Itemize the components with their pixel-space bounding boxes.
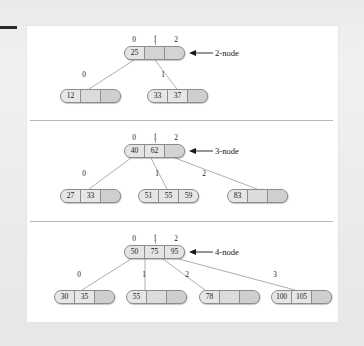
root-cell-0: 25 — [125, 47, 145, 59]
child3-2-cell-2 — [268, 190, 287, 202]
child-node-four-3[interactable]: 100 105 — [271, 290, 332, 304]
child4-0-cell-1: 35 — [75, 291, 95, 303]
root-node-two[interactable]: 25 — [124, 46, 185, 60]
child3-1-cell-0: 51 — [139, 190, 159, 202]
root-cell-1 — [145, 47, 165, 59]
child-1-cell-0: 33 — [148, 90, 168, 102]
child4-2-cell-0: 78 — [200, 291, 220, 303]
root4-cell-1: 75 — [145, 246, 165, 258]
child4-1-cell-2 — [167, 291, 186, 303]
root-node-three[interactable]: 40 62 — [124, 144, 185, 158]
root-index-0: 0 — [128, 36, 140, 43]
root4-index-0: 0 — [128, 235, 140, 242]
child-1-cell-2 — [188, 90, 207, 102]
root3-cell-1: 62 — [145, 145, 165, 157]
child4-2-cell-2 — [240, 291, 259, 303]
callout-label-three-node: 3-node — [215, 147, 239, 156]
edge-label-three-2: 2 — [199, 170, 209, 177]
root4-index-tick — [155, 234, 156, 244]
child3-2-cell-0: 83 — [228, 190, 248, 202]
child3-1-cell-2: 59 — [179, 190, 198, 202]
edge-label-four-1: 1 — [139, 271, 149, 278]
callout-label-two-node: 2-node — [215, 49, 239, 58]
edge-label-four-2: 2 — [182, 271, 192, 278]
tree-links-three-node — [27, 121, 338, 221]
child-node-three-1[interactable]: 51 55 59 — [138, 189, 199, 203]
edge-label-two-0: 0 — [79, 71, 89, 78]
root4-cell-2: 95 — [165, 246, 184, 258]
callout-label-four-node: 4-node — [215, 248, 239, 257]
section-three-node: 0 1 2 40 62 3-node 0 1 2 27 33 51 55 59 … — [27, 121, 338, 221]
child3-0-cell-0: 27 — [61, 190, 81, 202]
child4-3-cell-2 — [312, 291, 331, 303]
edge-label-four-0: 0 — [74, 271, 84, 278]
root3-index-tick — [155, 133, 156, 143]
child-node-three-2[interactable]: 83 — [227, 189, 288, 203]
root-index-tick — [155, 35, 156, 45]
child-node-three-0[interactable]: 27 33 — [60, 189, 121, 203]
child4-1-cell-1 — [147, 291, 167, 303]
section-four-node: 0 1 2 50 75 95 4-node 0 1 2 3 30 35 55 — [27, 222, 338, 322]
tree-links-two-node — [27, 26, 338, 126]
child3-0-cell-2 — [101, 190, 120, 202]
child-node-two-1[interactable]: 33 37 — [147, 89, 208, 103]
child-node-four-0[interactable]: 30 35 — [54, 290, 115, 304]
child4-0-cell-0: 30 — [55, 291, 75, 303]
child-node-two-0[interactable]: 12 — [60, 89, 121, 103]
root4-cell-0: 50 — [125, 246, 145, 258]
child4-0-cell-2 — [95, 291, 114, 303]
edge-label-three-0: 0 — [79, 170, 89, 177]
child-0-cell-0: 12 — [61, 90, 81, 102]
child3-2-cell-1 — [248, 190, 268, 202]
root-index-2: 2 — [170, 36, 182, 43]
section-two-node: 0 1 2 25 2-node 0 1 12 33 37 — [27, 26, 338, 120]
root3-index-2: 2 — [170, 134, 182, 141]
edge-label-three-1: 1 — [152, 170, 162, 177]
child-0-cell-1 — [81, 90, 101, 102]
edge-label-four-3: 3 — [270, 271, 280, 278]
child-node-four-2[interactable]: 78 — [199, 290, 260, 304]
child4-3-cell-0: 100 — [272, 291, 292, 303]
root4-index-2: 2 — [170, 235, 182, 242]
child-1-cell-1: 37 — [168, 90, 188, 102]
child3-1-cell-1: 55 — [159, 190, 179, 202]
edge-label-two-1: 1 — [158, 71, 168, 78]
child-0-cell-2 — [101, 90, 120, 102]
child4-1-cell-0: 55 — [127, 291, 147, 303]
child4-3-cell-1: 105 — [292, 291, 312, 303]
left-margin-rule — [0, 26, 17, 29]
root-node-four[interactable]: 50 75 95 — [124, 245, 185, 259]
root3-cell-2 — [165, 145, 184, 157]
root3-cell-0: 40 — [125, 145, 145, 157]
root3-index-0: 0 — [128, 134, 140, 141]
figure-card: 0 1 2 25 2-node 0 1 12 33 37 — [27, 26, 338, 322]
child-node-four-1[interactable]: 55 — [126, 290, 187, 304]
child3-0-cell-1: 33 — [81, 190, 101, 202]
root-cell-2 — [165, 47, 184, 59]
child4-2-cell-1 — [220, 291, 240, 303]
